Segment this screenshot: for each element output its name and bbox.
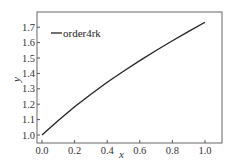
x-tick-label: 0.2 [68, 145, 81, 156]
y-tick-label: 1.5 [22, 53, 35, 64]
y-tick-label: 1.3 [22, 83, 35, 94]
x-tick-label: 0.0 [35, 145, 48, 156]
x-tick-label: 0.8 [166, 145, 179, 156]
y-tick-label: 1.1 [22, 114, 35, 125]
y-tick-label: 1.7 [22, 22, 35, 33]
y-tick-label: 1.4 [22, 68, 36, 79]
x-axis-label: x [118, 148, 124, 160]
x-tick-label: 0.4 [101, 145, 115, 156]
legend-label: order4rk [63, 27, 101, 39]
y-tick-label: 1.6 [22, 37, 35, 48]
legend: order4rk [51, 27, 101, 39]
series-line-order4rk [42, 22, 205, 135]
y-tick-label: 1.2 [22, 99, 35, 110]
line-chart: 1.01.11.21.31.41.51.61.7 0.00.20.40.60.8… [0, 0, 234, 167]
y-tick-label: 1.0 [22, 130, 35, 141]
y-axis-label: y [10, 77, 22, 83]
x-tick-label: 1.0 [198, 145, 211, 156]
x-tick-label: 0.6 [133, 145, 146, 156]
